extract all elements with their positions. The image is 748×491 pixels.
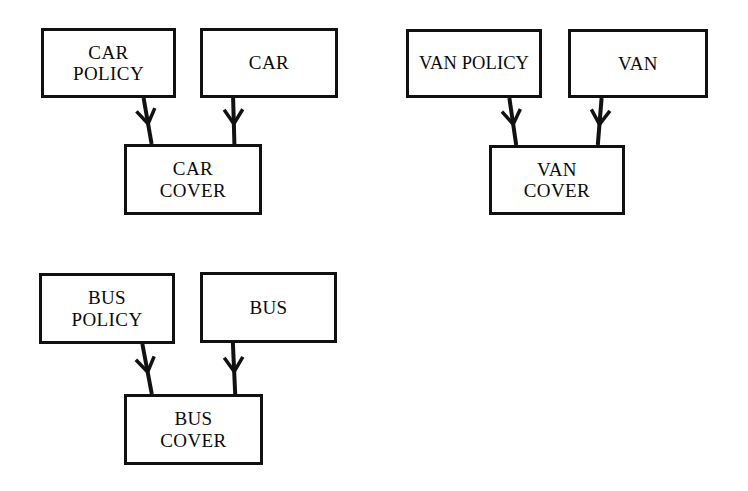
edge-line-van-policy-to-van-cover	[509, 98, 516, 145]
entity-box-bus-policy[interactable]: BUS POLICY	[39, 273, 175, 344]
diagram-canvas: CAR POLICY CAR CAR COVER VAN POLICY VAN …	[0, 0, 748, 491]
entity-label-van-cover: VAN COVER	[520, 159, 594, 202]
entity-box-van[interactable]: VAN	[568, 29, 708, 98]
entity-label-bus: BUS	[245, 297, 291, 318]
arrowhead-car-to-car-cover	[224, 109, 243, 123]
entity-box-car[interactable]: CAR	[200, 28, 338, 98]
entity-label-car: CAR	[245, 52, 293, 73]
edge-line-car-policy-to-car-cover	[144, 98, 152, 144]
entity-label-car-policy: CAR POLICY	[69, 42, 148, 85]
entity-label-car-cover: CAR COVER	[156, 158, 230, 201]
entity-label-van: VAN	[614, 53, 662, 74]
arrowhead-car-policy-to-car-cover	[136, 108, 154, 124]
edge-line-bus-policy-to-bus-cover	[142, 344, 151, 394]
entity-label-bus-cover: BUS COVER	[156, 408, 230, 451]
entity-box-van-cover[interactable]: VAN COVER	[489, 145, 625, 215]
edge-line-car-to-car-cover	[233, 98, 234, 144]
arrowhead-van-policy-to-van-cover	[502, 109, 520, 124]
edge-line-van-to-van-cover	[598, 98, 602, 145]
entity-box-car-cover[interactable]: CAR COVER	[124, 144, 262, 215]
entity-label-bus-policy: BUS POLICY	[67, 287, 146, 330]
arrowhead-bus-policy-to-bus-cover	[136, 356, 154, 372]
arrowhead-van-to-van-cover	[591, 109, 610, 124]
arrowhead-bus-to-bus-cover	[224, 357, 243, 372]
edge-line-bus-to-bus-cover	[233, 343, 235, 394]
entity-box-car-policy[interactable]: CAR POLICY	[41, 28, 176, 98]
entity-box-bus[interactable]: BUS	[200, 272, 337, 343]
entity-box-van-policy[interactable]: VAN POLICY	[406, 29, 542, 98]
entity-box-bus-cover[interactable]: BUS COVER	[124, 394, 263, 465]
entity-label-van-policy: VAN POLICY	[415, 53, 533, 74]
